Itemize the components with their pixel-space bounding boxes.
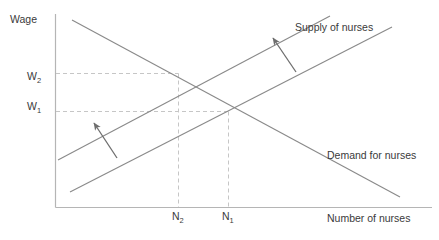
y-tick-w2-subscript: 2 <box>37 76 41 85</box>
supply-curve-label: Supply of nurses <box>295 22 373 33</box>
y-tick-w1-subscript: 1 <box>37 106 41 115</box>
x-tick-n2-base: N <box>172 210 180 222</box>
demand-curve <box>72 20 400 197</box>
x-tick-n2-subscript: 2 <box>180 216 184 225</box>
chart-container: Wage W2 W1 N2 N1 Supply of nurses Demand… <box>0 0 439 240</box>
y-axis-title: Wage <box>10 14 37 25</box>
x-tick-label-n2: N2 <box>172 211 184 222</box>
supply-curve-shifted <box>58 16 330 160</box>
y-tick-w1-base: W <box>27 100 37 112</box>
x-axis-title: Number of nurses <box>327 213 410 224</box>
supply-shift-arrow-left <box>94 123 117 158</box>
y-tick-label-w1: W1 <box>27 101 41 112</box>
x-tick-n1-base: N <box>222 210 230 222</box>
supply-demand-plot <box>0 0 439 240</box>
y-tick-label-w2: W2 <box>27 71 41 82</box>
x-tick-label-n1: N1 <box>222 211 234 222</box>
supply-shift-arrow-right <box>273 38 296 72</box>
y-tick-w2-base: W <box>27 70 37 82</box>
x-tick-n1-subscript: 1 <box>230 216 234 225</box>
demand-curve-label: Demand for nurses <box>327 150 416 161</box>
